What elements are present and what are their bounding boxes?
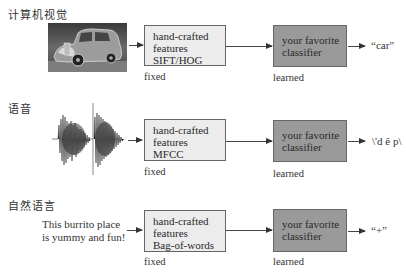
classifier-box: your favorite classifier: [273, 25, 347, 67]
feature-box-line: features: [153, 42, 225, 54]
feature-box-line: hand-crafted: [153, 30, 225, 42]
classifier-box-line: your favorite: [282, 129, 346, 141]
arrow-icon: [226, 141, 272, 142]
classifier-box: your favorite classifier: [273, 209, 347, 252]
feature-box: hand-crafted features Bag-of-words: [144, 210, 226, 252]
input-sentence-line: This burrito place: [42, 218, 125, 231]
arrow-icon: [226, 230, 272, 231]
output-label: “+”: [371, 224, 387, 236]
classifier-box-line: classifier: [282, 141, 346, 153]
feature-box-line: features: [153, 136, 225, 148]
section-title: 自然语言: [8, 197, 56, 213]
arrow-icon: [348, 46, 365, 47]
output-label: “car”: [371, 39, 394, 51]
feature-box: hand-crafted features MFCC: [144, 119, 226, 161]
input-sentence: This burrito place is yummy and fun!: [42, 218, 125, 244]
arrow-icon: [128, 140, 142, 141]
classifier-box-line: your favorite: [282, 34, 346, 46]
input-sentence-line: is yummy and fun!: [42, 231, 125, 244]
arrow-icon: [129, 45, 143, 46]
feature-box-line: hand-crafted: [153, 215, 225, 227]
fixed-label: fixed: [144, 166, 166, 177]
classifier-box-line: your favorite: [282, 218, 346, 230]
section-title: 语音: [8, 100, 32, 116]
arrow-icon: [127, 230, 142, 231]
arrow-icon: [348, 141, 365, 142]
arrow-icon: [226, 46, 272, 47]
classifier-box-line: classifier: [282, 46, 346, 58]
fixed-label: fixed: [144, 71, 166, 82]
feature-box-line: hand-crafted: [153, 124, 225, 136]
feature-method: MFCC: [153, 148, 225, 160]
output-label: \'d ē p\: [372, 135, 401, 147]
car-photo-icon: [48, 23, 127, 72]
learned-label: learned: [273, 256, 304, 267]
learned-label: learned: [273, 72, 304, 83]
audio-waveform-icon: [50, 103, 126, 175]
arrow-icon: [348, 231, 365, 232]
feature-method: SIFT/HOG: [153, 54, 225, 66]
classifier-box: your favorite classifier: [273, 120, 347, 162]
section-title: 计算机视觉: [8, 6, 68, 22]
learned-label: learned: [273, 168, 304, 179]
fixed-label: fixed: [144, 256, 166, 267]
feature-method: Bag-of-words: [153, 239, 225, 251]
feature-box: hand-crafted features SIFT/HOG: [144, 25, 226, 66]
feature-box-line: features: [153, 227, 225, 239]
classifier-box-line: classifier: [282, 230, 346, 242]
